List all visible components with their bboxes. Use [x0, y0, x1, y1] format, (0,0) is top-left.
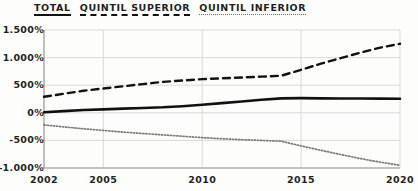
chart-figure: TOTAL QUINTIL SUPERIOR QUINTIL INFERIOR …	[0, 0, 418, 191]
x-tick-label: 2010	[188, 174, 216, 185]
x-axis-tick-labels: 20022005201020152020	[0, 0, 418, 191]
x-tick-label: 2015	[287, 174, 315, 185]
x-tick-label: 2020	[386, 174, 414, 185]
x-tick-label: 2002	[30, 174, 58, 185]
x-tick-label: 2005	[89, 174, 117, 185]
